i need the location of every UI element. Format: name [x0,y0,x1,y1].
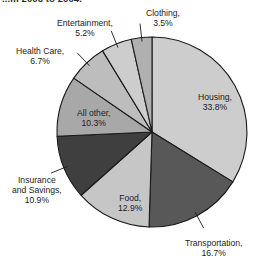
slice-label-name: Food, [118,193,142,203]
slice-label: Health Care,6.7% [16,46,64,66]
slice-label-value: 3.5% [146,18,180,28]
slice-label: Clothing,3.5% [146,8,180,28]
slice-label: All other,10.3% [77,108,110,128]
slice-label: Housing,33.8% [198,92,232,112]
slice-label: Entertainment,5.2% [57,18,113,38]
slice-label: Transportation,16.7% [185,238,242,258]
slice-label-name: Insurance [12,175,62,185]
slice-label-name: Health Care, [16,46,64,56]
slice-label-name-cont: and Savings, [12,185,62,195]
slice-label-name: Clothing, [146,8,180,18]
slice-label-value: 12.9% [118,203,142,213]
slice-label-name: Housing, [198,92,232,102]
pie-slices-group [57,37,247,227]
slice-label-value: 10.3% [77,118,110,128]
slice-label-name: Transportation, [185,238,242,248]
pie-chart-figure: ...m 2003 to 2004. Housing,33.8%Transpor… [0,0,265,268]
leader-line [77,53,89,66]
slice-label-value: 5.2% [57,28,113,38]
slice-label-value: 6.7% [16,56,64,66]
slice-label-name: Entertainment, [57,18,113,28]
slice-label: Insuranceand Savings,10.9% [12,175,62,206]
slice-label-value: 10.9% [12,195,62,205]
slice-label-name: All other, [77,108,110,118]
slice-label-value: 33.8% [198,102,232,112]
pie-chart-graphic [0,0,265,268]
slice-label-value: 16.7% [185,248,242,258]
slice-label: Food,12.9% [118,193,142,213]
